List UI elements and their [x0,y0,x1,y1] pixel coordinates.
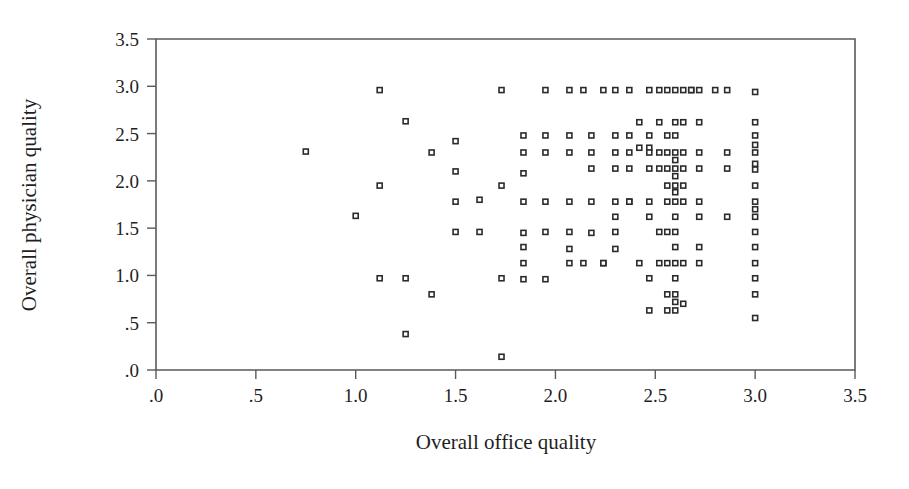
data-point [601,88,606,93]
data-point [521,230,526,235]
y-tick-label-2: 1.0 [115,265,139,286]
data-point [543,277,548,282]
x-tick-label-2: 1.0 [344,385,368,406]
y-tick-label-6: 3.0 [115,76,139,97]
data-point [567,229,572,234]
data-point [657,166,662,171]
data-point [753,261,758,266]
data-point [613,214,618,219]
data-point [697,245,702,250]
data-point [303,149,308,154]
data-point [681,88,686,93]
data-point [589,133,594,138]
data-point [543,133,548,138]
data-point [637,261,642,266]
data-point [627,199,632,204]
data-point [681,166,686,171]
data-point [567,133,572,138]
data-point [681,261,686,266]
plot-box [156,39,855,370]
data-point [403,276,408,281]
data-point [673,88,678,93]
data-point [567,246,572,251]
data-point [581,88,586,93]
data-point [665,292,670,297]
data-point [601,261,606,266]
data-point [673,276,678,281]
data-point [673,245,678,250]
data-point [697,120,702,125]
data-point [647,276,652,281]
data-point [647,166,652,171]
data-point [647,199,652,204]
data-point [613,150,618,155]
data-point [499,354,504,359]
data-point [753,167,758,172]
data-point [613,166,618,171]
data-point [589,166,594,171]
x-tick-label-6: 3.0 [743,385,767,406]
data-point [753,199,758,204]
data-point [429,150,434,155]
data-point [673,183,678,188]
x-tick-label-3: 1.5 [444,385,468,406]
x-tick-label-5: 2.5 [643,385,667,406]
data-point [753,89,758,94]
data-point [713,88,718,93]
x-tick-label-7: 3.5 [843,385,867,406]
data-point [521,245,526,250]
data-point [753,214,758,219]
data-point [499,276,504,281]
data-point [613,246,618,251]
data-point [681,301,686,306]
data-point [673,299,678,304]
data-point [673,292,678,297]
data-point [673,174,678,179]
data-point [681,199,686,204]
data-point [673,120,678,125]
x-tick-label-4: 2.0 [544,385,568,406]
data-point [543,229,548,234]
data-point [673,133,678,138]
data-point [673,166,678,171]
data-point [477,197,482,202]
data-point [627,133,632,138]
data-point [589,199,594,204]
data-point [673,229,678,234]
data-point [613,199,618,204]
data-point [665,229,670,234]
data-point [377,276,382,281]
data-point [673,150,678,155]
data-point [543,199,548,204]
data-point [697,214,702,219]
data-point [665,133,670,138]
y-tick-label-7: 3.5 [115,29,139,50]
data-point [627,88,632,93]
data-point [521,199,526,204]
data-point [753,120,758,125]
data-point [647,88,652,93]
data-point [543,88,548,93]
data-point [477,229,482,234]
data-point [673,158,678,163]
data-point [657,88,662,93]
data-point [665,166,670,171]
data-point [521,261,526,266]
data-point [681,183,686,188]
data-point [499,88,504,93]
data-point [753,276,758,281]
data-point [589,150,594,155]
data-point [637,120,642,125]
data-point [627,166,632,171]
data-point [657,261,662,266]
plot-frame [156,39,855,370]
data-point [521,171,526,176]
data-point [681,120,686,125]
data-point [453,139,458,144]
data-point [567,199,572,204]
data-point [613,133,618,138]
x-tick-label-0: .0 [149,385,163,406]
data-point [673,190,678,195]
data-point [453,169,458,174]
data-point [689,88,694,93]
